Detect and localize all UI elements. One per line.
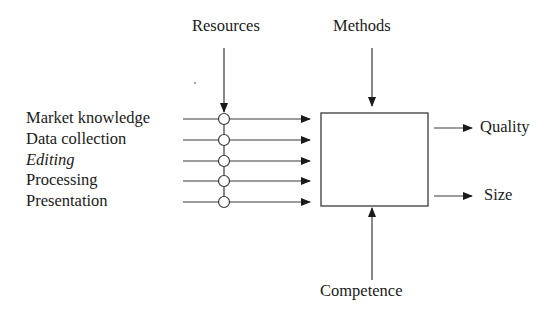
junction-circle bbox=[219, 135, 230, 146]
diagram-canvas bbox=[0, 0, 558, 310]
label-resources: Resources bbox=[192, 16, 260, 36]
junction-circle bbox=[219, 176, 230, 187]
input-label-data-collection: Data collection bbox=[26, 129, 126, 149]
input-label-presentation: Presentation bbox=[26, 191, 108, 211]
scan-artifact-dot bbox=[194, 82, 196, 84]
input-label-editing: Editing bbox=[26, 150, 75, 170]
input-label-market-knowledge: Market knowledge bbox=[26, 108, 150, 128]
input-label-processing: Processing bbox=[26, 170, 98, 190]
output-label-quality: Quality bbox=[480, 117, 530, 137]
junction-circle bbox=[219, 197, 230, 208]
label-competence: Competence bbox=[320, 281, 402, 301]
label-methods: Methods bbox=[333, 16, 391, 36]
output-label-size: Size bbox=[484, 185, 512, 205]
input-arrows bbox=[183, 119, 310, 202]
junction-circle bbox=[219, 114, 230, 125]
process-box bbox=[321, 113, 428, 206]
junction-circle bbox=[219, 156, 230, 167]
